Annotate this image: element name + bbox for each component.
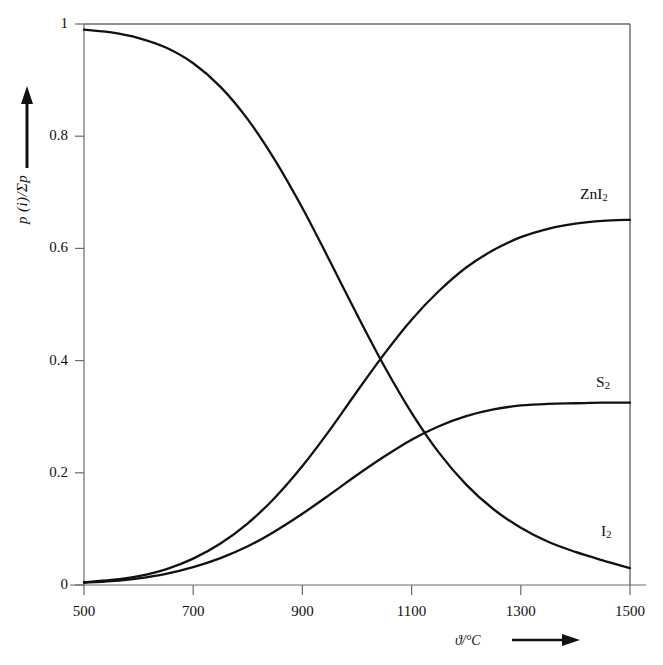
- y-axis-ticks: [75, 24, 84, 585]
- y-axis-title-text: p (i)/Σp: [14, 175, 30, 224]
- y-axis-tick-label: 0.8: [18, 128, 68, 143]
- series-label-s2-text: S: [596, 373, 605, 390]
- series-label-i2-sub: 2: [606, 529, 611, 540]
- x-axis-tick-label: 700: [158, 604, 228, 619]
- series-label-s2-sub: 2: [605, 380, 610, 391]
- y-axis-tick-label: 0.6: [18, 240, 68, 255]
- chart-canvas: [0, 0, 663, 665]
- y-axis-tick-label: 0.2: [18, 465, 68, 480]
- x-axis-tick-label: 1500: [595, 604, 663, 619]
- y-axis-tick-label: 1: [18, 16, 68, 31]
- series-curve-S2: [84, 403, 630, 583]
- x-axis-title-text: ϑ/°C: [455, 633, 481, 648]
- series-label-znI2-text: ZnI: [580, 185, 602, 202]
- y-axis-title: p (i)/Σp: [14, 196, 31, 224]
- series-curves: [84, 30, 630, 583]
- plot-frame: [70, 24, 646, 585]
- x-axis-arrow-icon: [512, 634, 580, 646]
- series-label-znI2-sub: 2: [602, 192, 607, 203]
- x-axis-tick-label: 1100: [377, 604, 447, 619]
- series-label-i2: I2: [601, 523, 611, 541]
- x-axis-ticks: [84, 585, 630, 595]
- x-axis-tick-label: 500: [49, 604, 119, 619]
- y-axis-arrow-icon: [21, 86, 33, 168]
- series-label-s2: S2: [596, 374, 610, 392]
- x-axis-tick-label: 900: [267, 604, 337, 619]
- y-axis-tick-label: 0: [18, 577, 68, 592]
- series-curve-I2: [84, 30, 630, 569]
- x-axis-tick-label: 1300: [486, 604, 556, 619]
- chart-figure: p (i)/Σp ϑ/°C ZnI2 S2 I2 10.80.60.40.20 …: [0, 0, 663, 665]
- series-curve-ZnI2: [84, 220, 630, 582]
- series-label-znI2: ZnI2: [580, 186, 608, 204]
- x-axis-title: ϑ/°C: [455, 633, 481, 649]
- y-axis-tick-label: 0.4: [18, 353, 68, 368]
